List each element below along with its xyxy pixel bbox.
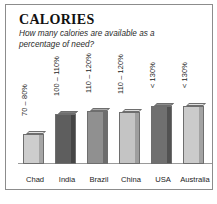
bar-australia[interactable] (183, 103, 205, 164)
bar-group: 110 – 120%Brazil (84, 55, 114, 164)
chart-screenshot: CALORIES How many calories are available… (0, 0, 217, 204)
bar-front-face (23, 134, 40, 164)
bar-side-face (199, 106, 204, 164)
bar-india[interactable] (55, 111, 77, 164)
bar-group: < 130%USA (148, 55, 178, 164)
bar-usa[interactable] (151, 103, 173, 164)
bar-side-face (39, 134, 44, 164)
page-title: CALORIES (19, 12, 95, 27)
bar-value-label: < 130% (180, 66, 189, 88)
bar-front-face (151, 106, 168, 164)
x-axis-tick-label: China (114, 175, 148, 184)
bar-side-face (135, 112, 140, 164)
x-axis-tick-label: Australia (178, 175, 212, 184)
bar-group: < 130%Australia (180, 55, 210, 164)
chart-subtitle: How many calories are available as a per… (19, 29, 197, 50)
x-axis-tick-label: Chad (18, 175, 52, 184)
bar-side-face (103, 111, 108, 164)
bar-chad[interactable] (23, 131, 45, 164)
bar-value-label: 100 – 110% (52, 74, 61, 96)
bar-china[interactable] (119, 109, 141, 164)
bar-group: 100 – 110%India (52, 55, 82, 164)
bar-group: 70 – 80%Chad (20, 55, 50, 164)
bar-side-face (71, 114, 76, 164)
bar-side-face (167, 106, 172, 164)
chart-card: CALORIES How many calories are available… (5, 4, 213, 190)
bar-front-face (55, 114, 72, 164)
bar-group: 110 – 120%China (116, 55, 146, 164)
bar-chart-plot: 70 – 80%Chad100 – 110%India110 – 120%Bra… (18, 55, 212, 189)
x-axis-tick-label: Brazil (82, 175, 116, 184)
bar-value-label: 110 – 120% (84, 71, 93, 93)
bar-value-label: < 130% (148, 66, 157, 88)
bar-front-face (183, 106, 200, 164)
bar-brazil[interactable] (87, 108, 109, 164)
bar-front-face (119, 112, 136, 164)
x-axis-tick-label: USA (146, 175, 180, 184)
bar-value-label: 110 – 120% (116, 72, 125, 94)
bar-front-face (87, 111, 104, 164)
x-axis-tick-label: India (50, 175, 84, 184)
bar-value-label: 70 – 80% (20, 94, 29, 116)
